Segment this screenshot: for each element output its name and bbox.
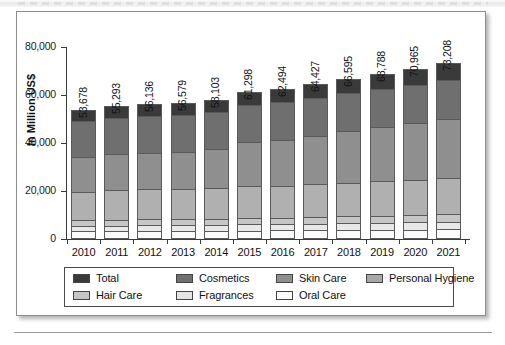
bar-column[interactable] [237, 92, 262, 239]
bar-segment [137, 116, 162, 153]
x-tick-label: 2014 [198, 246, 234, 258]
y-tick-mark [61, 47, 66, 48]
x-tick-label: 2012 [132, 246, 168, 258]
x-tick-mark [465, 239, 466, 244]
y-tick-label: 80,000 [2, 40, 56, 52]
bar-segment [204, 188, 229, 219]
legend-swatch [276, 274, 293, 283]
bar-total-label: 68,788 [375, 51, 387, 82]
bar-segment [403, 180, 428, 215]
bar-segment [137, 189, 162, 219]
legend-item[interactable]: Hair Care [73, 289, 142, 301]
bar-segment [436, 214, 461, 222]
bar-segment [370, 230, 395, 239]
legend-item[interactable]: Fragrances [176, 289, 254, 301]
y-tick-label: 20,000 [2, 184, 56, 196]
bar-segment [237, 142, 262, 187]
bar-segment [303, 230, 328, 239]
bar-segment [137, 153, 162, 189]
bar-column[interactable] [137, 104, 162, 239]
legend-label: Oral Care [299, 289, 346, 301]
bar-segment [336, 230, 361, 239]
bar-column[interactable] [336, 79, 361, 239]
legend-item[interactable]: Cosmetics [176, 272, 249, 284]
bar-segment [104, 190, 129, 220]
legend-label: Total [96, 272, 119, 284]
bar-segment [403, 123, 428, 180]
x-tick-label: 2010 [66, 246, 102, 258]
x-tick-mark [266, 239, 267, 244]
y-tick-label: 40,000 [2, 136, 56, 148]
bar-segment [237, 105, 262, 142]
legend-item[interactable]: Skin Care [276, 272, 346, 284]
bar-total-label: 62,494 [276, 66, 288, 97]
x-tick-mark [399, 239, 400, 244]
x-tick-mark [233, 239, 234, 244]
bar-total-label: 58,103 [209, 77, 221, 108]
bar-segment [370, 127, 395, 181]
bar-segment [237, 186, 262, 218]
bar-segment [370, 181, 395, 215]
bar-segment [270, 218, 295, 225]
bar-segment [303, 217, 328, 224]
bar-column[interactable] [71, 110, 96, 239]
bar-segment [370, 223, 395, 230]
bar-total-label: 66,595 [342, 56, 354, 87]
x-tick-mark [133, 239, 134, 244]
legend-item[interactable]: Oral Care [276, 289, 346, 301]
x-tick-mark [100, 239, 101, 244]
bar-total-label: 56,136 [143, 81, 155, 112]
scan-dash-strip [18, 2, 488, 5]
footer-rule [14, 332, 492, 333]
bar-segment [403, 85, 428, 123]
legend-swatch [73, 291, 90, 300]
bar-segment [403, 222, 428, 229]
legend-swatch [276, 291, 293, 300]
x-tick-label: 2020 [397, 246, 433, 258]
bar-total-label: 56,579 [176, 80, 188, 111]
bar-segment [403, 230, 428, 239]
bar-segment [237, 231, 262, 239]
bar-column[interactable] [171, 103, 196, 239]
legend-label: Hair Care [96, 289, 142, 301]
bar-segment [71, 231, 96, 239]
bar-column[interactable] [270, 89, 295, 239]
bar-total-label: 64,427 [309, 61, 321, 92]
bar-segment [270, 140, 295, 186]
x-tick-mark [366, 239, 367, 244]
x-tick-mark [67, 239, 68, 244]
bar-column[interactable] [370, 74, 395, 239]
bar-segment [436, 80, 461, 118]
legend-item[interactable]: Personal Hygiene [366, 272, 474, 284]
bar-segment [104, 154, 129, 190]
y-axis-title: In Million US$ [25, 55, 37, 165]
bar-segment [336, 223, 361, 230]
legend-swatch [73, 274, 90, 283]
plot-area [67, 47, 465, 239]
y-tick-label: 0 [2, 232, 56, 244]
y-tick-mark [61, 95, 66, 96]
bar-segment [436, 229, 461, 239]
bar-segment [336, 131, 361, 183]
legend-item[interactable]: Total [73, 272, 119, 284]
bar-column[interactable] [403, 69, 428, 239]
bar-segment [171, 189, 196, 219]
bar-column[interactable] [436, 63, 461, 239]
bar-segment [270, 186, 295, 218]
bar-column[interactable] [204, 100, 229, 239]
bar-total-label: 61,298 [242, 69, 254, 100]
x-tick-mark [299, 239, 300, 244]
y-tick-label: 60,000 [2, 88, 56, 100]
chart-legend: TotalCosmeticsSkin CarePersonal HygieneH… [64, 267, 454, 307]
x-tick-label: 2011 [99, 246, 135, 258]
bar-segment [370, 89, 395, 127]
bar-segment [370, 216, 395, 223]
bar-segment [436, 119, 461, 178]
bar-column[interactable] [104, 106, 129, 239]
bar-column[interactable] [303, 84, 328, 239]
bar-segment [270, 230, 295, 239]
bar-segment [303, 184, 328, 217]
x-tick-label: 2016 [265, 246, 301, 258]
x-tick-label: 2018 [331, 246, 367, 258]
x-tick-label: 2021 [430, 246, 466, 258]
